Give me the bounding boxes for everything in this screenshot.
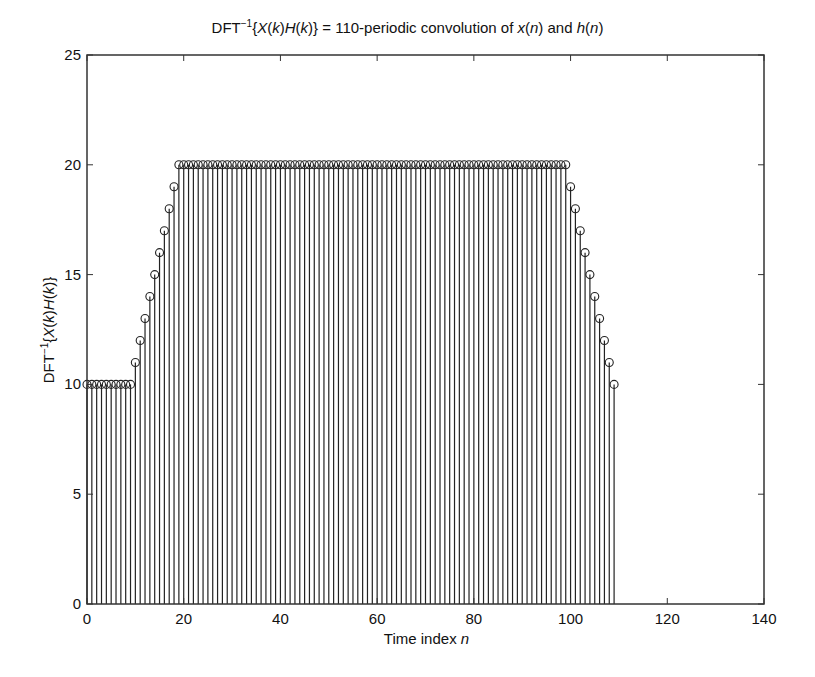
stem-plot: 0204060801001201400510152025 — [0, 0, 815, 677]
x-tick-label: 100 — [558, 610, 583, 627]
y-tick-label: 5 — [73, 485, 81, 502]
stem-series — [83, 161, 618, 604]
x-tick-label: 20 — [175, 610, 192, 627]
y-tick-label: 0 — [73, 595, 81, 612]
x-tick-label: 60 — [369, 610, 386, 627]
x-tick-label: 0 — [83, 610, 91, 627]
y-tick-label: 25 — [64, 46, 81, 63]
y-tick-label: 20 — [64, 156, 81, 173]
x-tick-label: 120 — [655, 610, 680, 627]
x-tick-label: 140 — [751, 610, 776, 627]
y-tick-label: 15 — [64, 266, 81, 283]
x-tick-label: 80 — [466, 610, 483, 627]
y-tick-label: 10 — [64, 375, 81, 392]
x-tick-label: 40 — [272, 610, 289, 627]
